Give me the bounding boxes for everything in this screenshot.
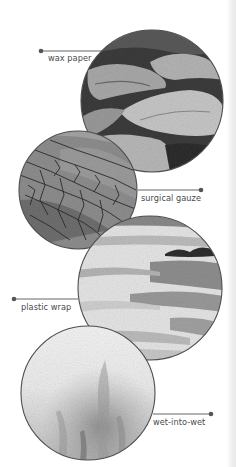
label-surgical-gauze: surgical gauze [141,194,201,202]
callout-wet-into-wet [153,412,213,417]
texture-swatches-illustration [0,0,236,467]
callout-dot-icon [39,49,44,54]
callout-surgical-gauze [138,188,203,193]
wet-into-wet-swatch [21,326,155,460]
callout-dot-icon [12,297,17,302]
label-plastic-wrap: plastic wrap [21,303,71,311]
callout-plastic-wrap [12,297,78,302]
label-wet-into-wet: wet-into-wet [153,418,205,426]
callout-dot-icon [199,188,204,193]
label-wax-paper: wax paper [48,54,91,62]
callout-dot-icon [209,412,214,417]
book-page: wax paper surgical gauze plastic wrap we… [0,0,236,467]
